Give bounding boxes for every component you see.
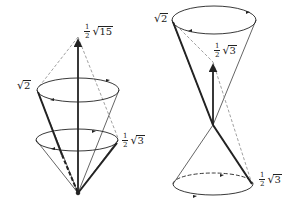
label-right-upper-left: √2: [154, 13, 168, 24]
left-figure: [36, 37, 119, 195]
sqrt: √3: [130, 135, 144, 146]
sqrt: √15: [92, 26, 113, 37]
sqrt: √3: [222, 45, 236, 56]
sqrt: √2: [154, 13, 168, 24]
fraction: 12: [259, 171, 265, 188]
label-right-center: 12 √3: [214, 42, 237, 59]
fraction: 12: [122, 132, 128, 149]
label-right-lower-right: 12 √3: [259, 171, 282, 188]
label-left-upper-left: √2: [17, 80, 31, 91]
lower-ellipse: [36, 129, 118, 151]
label-left-lower-right: 12 √3: [122, 132, 145, 149]
fraction: 12: [84, 23, 90, 40]
fraction: 12: [214, 42, 220, 59]
sqrt: √3: [267, 174, 281, 185]
top-ellipse: [172, 6, 256, 34]
right-figure: [172, 6, 256, 198]
cone-diagram: [0, 0, 295, 205]
label-left-top: 12 √15: [84, 23, 113, 40]
sqrt: √2: [17, 80, 31, 91]
